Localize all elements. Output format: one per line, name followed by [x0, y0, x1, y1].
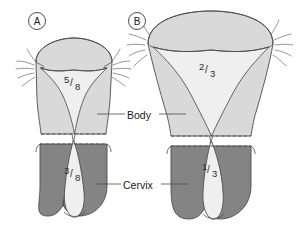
panel-a-right-ligaments [111, 49, 131, 86]
panel-a-cervix-fraction-denominator: 8 [75, 172, 80, 183]
panel-a-cervix-fraction-numerator: 3 [64, 165, 69, 176]
panel-a-cervix-left-tick [36, 144, 40, 152]
panel-b-cervix-right-tick [251, 146, 255, 154]
panel-a-cervix-fraction-slash: / [70, 168, 73, 179]
panel-b-cervix-left-tick [167, 146, 171, 154]
panel-a-left-ligaments [16, 49, 36, 86]
panel-a-letter: A [34, 16, 41, 27]
panel-b-body-fraction-slash: / [205, 64, 208, 75]
panel-a-isthmus [72, 134, 75, 142]
uterus-proportion-figure: A 5 / 8 3 / 8 [0, 0, 301, 230]
panel-b-body-fraction-numerator: 2 [199, 61, 204, 72]
callout-body-label: Body [127, 109, 152, 121]
panel-a-body-fraction-denominator: 8 [75, 81, 80, 92]
panel-b-cervix-fraction-slash: / [207, 164, 210, 175]
panel-b-letter: B [134, 16, 141, 27]
panel-b-cervix-fraction-denominator: 3 [212, 168, 217, 179]
panel-b-right-ligaments [270, 20, 293, 66]
panel-b-body-fraction-denominator: 3 [210, 68, 215, 79]
panel-a-body-fraction-slash: / [70, 77, 73, 88]
panel-a-body-fraction-numerator: 5 [64, 74, 69, 85]
callout-cervix-label: Cervix [123, 179, 154, 191]
panel-a-illustration: A 5 / 8 3 / 8 [16, 13, 131, 218]
panel-a-cervix-right-tick [107, 144, 111, 152]
figure-canvas: A 5 / 8 3 / 8 [0, 0, 301, 230]
